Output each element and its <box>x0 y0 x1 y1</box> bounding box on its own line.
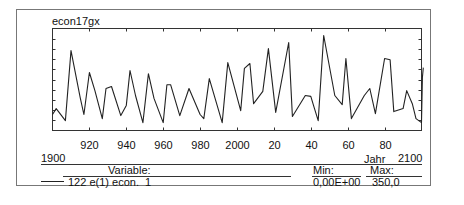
x-tick-label: 80 <box>379 139 391 151</box>
x-range-start: 1900 <box>41 152 65 164</box>
x-tick-label: 20 <box>268 139 280 151</box>
x-tick-label: 980 <box>191 139 209 151</box>
legend-line-swatch <box>41 181 64 182</box>
plot-frame <box>53 29 422 131</box>
x-range-end: 2100 <box>398 152 422 164</box>
legend-entry-min: 0,00E+00 <box>313 176 360 188</box>
x-tick-label: 2000 <box>225 139 249 151</box>
y-axis-ticks <box>53 40 422 121</box>
legend-entry-label: 122 e(1) econ. 1 <box>68 176 151 188</box>
x-axis-ticks <box>90 29 386 131</box>
legend-header-max: Max: <box>370 164 394 176</box>
x-tick-label: 920 <box>80 139 98 151</box>
series-line <box>53 36 424 123</box>
plot-area <box>0 0 464 205</box>
legend-header-variable: Variable: <box>108 164 151 176</box>
legend-entry-max: 350,0 <box>372 176 400 188</box>
x-tick-label: 960 <box>154 139 172 151</box>
legend-header-min: Min: <box>313 164 334 176</box>
x-range-underline <box>41 164 422 165</box>
x-tick-label: 60 <box>342 139 354 151</box>
x-tick-label: 940 <box>117 139 135 151</box>
x-tick-label: 40 <box>305 139 317 151</box>
